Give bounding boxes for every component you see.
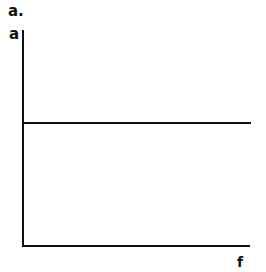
plot-area	[0, 0, 266, 272]
